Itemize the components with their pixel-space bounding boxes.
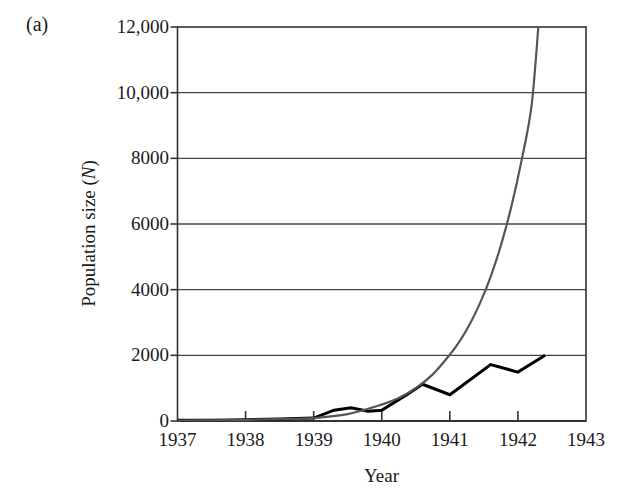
plot-area <box>0 0 639 500</box>
gridlines <box>178 93 587 356</box>
chart-figure: (a) Population size (N) Year 02000400060… <box>0 0 639 500</box>
y-axis-ticks <box>171 27 178 421</box>
